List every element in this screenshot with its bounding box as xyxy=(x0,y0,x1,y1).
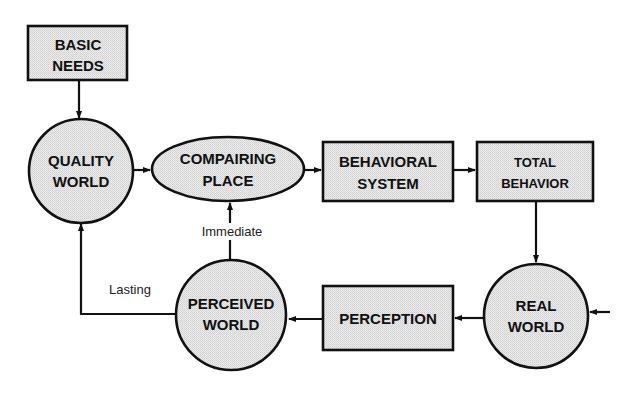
node-quality-world: QUALITY WORLD xyxy=(29,119,133,223)
behavioral-system-line1: BEHAVIORAL xyxy=(339,153,437,170)
behavioral-system-line2: SYSTEM xyxy=(357,175,419,192)
node-compairing-place: COMPAIRING PLACE xyxy=(152,137,304,201)
lasting-label: Lasting xyxy=(109,282,151,297)
quality-world-line2: WORLD xyxy=(53,173,110,190)
perceived-world-circle xyxy=(176,260,286,370)
compairing-place-ellipse xyxy=(152,137,304,201)
real-world-line2: WORLD xyxy=(508,318,565,335)
total-behavior-box xyxy=(477,142,593,201)
perceived-world-line2: WORLD xyxy=(203,316,260,333)
basic-needs-line1: BASIC xyxy=(55,36,102,53)
node-basic-needs: BASIC NEEDS xyxy=(28,26,127,80)
compairing-place-line2: PLACE xyxy=(203,172,254,189)
immediate-label: Immediate xyxy=(202,224,263,239)
control-theory-diagram: Immediate Lasting BASIC NEEDS QUALITY WO… xyxy=(0,0,629,395)
edge-perceived-world-to-quality-world xyxy=(81,224,175,314)
node-perceived-world: PERCEIVED WORLD xyxy=(176,260,286,370)
node-perception: PERCEPTION xyxy=(323,286,453,350)
quality-world-circle xyxy=(29,119,133,223)
perception-label: PERCEPTION xyxy=(339,310,437,327)
basic-needs-line2: NEEDS xyxy=(52,57,104,74)
real-world-line1: REAL xyxy=(516,297,557,314)
node-total-behavior: TOTAL BEHAVIOR xyxy=(477,142,593,201)
total-behavior-line1: TOTAL xyxy=(514,155,556,170)
behavioral-system-box xyxy=(323,142,453,201)
node-real-world: REAL WORLD xyxy=(484,264,588,368)
compairing-place-line1: COMPAIRING xyxy=(180,150,276,167)
perceived-world-line1: PERCEIVED xyxy=(188,295,275,312)
node-behavioral-system: BEHAVIORAL SYSTEM xyxy=(323,142,453,201)
total-behavior-line2: BEHAVIOR xyxy=(501,176,569,191)
real-world-circle xyxy=(484,264,588,368)
quality-world-line1: QUALITY xyxy=(48,152,114,169)
